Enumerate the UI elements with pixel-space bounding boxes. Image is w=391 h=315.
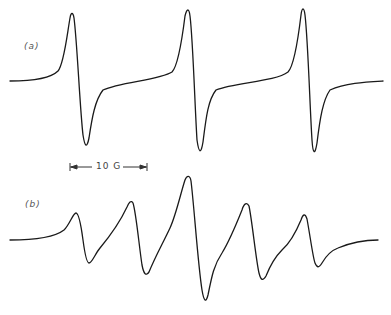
panel-a-label: (a) <box>24 41 40 51</box>
scale-bar-label: 10 G <box>96 161 121 171</box>
panel-b-label: (b) <box>25 199 41 209</box>
spectrum-a-trace <box>10 9 383 152</box>
spectrum-b-trace <box>10 176 378 300</box>
spectra-figure <box>0 0 391 315</box>
